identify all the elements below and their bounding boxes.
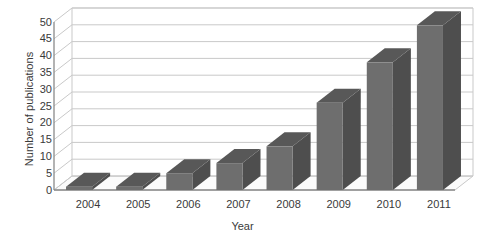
- gridline-connector: [54, 142, 72, 156]
- bar-side-face: [343, 89, 361, 190]
- x-axis-tick-labels: 20042005200620072008200920102011: [0, 198, 485, 216]
- bar-front-face: [66, 187, 92, 190]
- gridline-connector: [54, 126, 72, 140]
- bar-front-face: [417, 25, 443, 190]
- gridline-connector: [54, 92, 72, 106]
- bar-2011: [417, 11, 461, 190]
- bar-front-face: [317, 103, 343, 190]
- bar-front-face: [267, 146, 293, 190]
- x-tick-label: 2008: [266, 198, 312, 210]
- x-tick-label: 2004: [65, 198, 111, 210]
- gridline-connector: [54, 58, 72, 72]
- gridline-connector: [54, 8, 72, 22]
- x-tick-label: 2010: [366, 198, 412, 210]
- x-tick-label: 2005: [115, 198, 161, 210]
- x-axis-title: Year: [0, 220, 485, 232]
- bar-chart: Number of publications 05101520253035404…: [0, 0, 485, 238]
- bar-side-face: [393, 48, 411, 190]
- bar-front-face: [116, 187, 142, 190]
- bar-front-face: [216, 163, 242, 190]
- bar-2009: [317, 89, 361, 190]
- x-tick-label: 2011: [416, 198, 462, 210]
- bar-2010: [367, 48, 411, 190]
- gridline-connector: [54, 75, 72, 89]
- gridline-connector: [54, 25, 72, 39]
- x-tick-label: 2006: [165, 198, 211, 210]
- x-tick-label: 2009: [316, 198, 362, 210]
- x-tick-label: 2007: [215, 198, 261, 210]
- bar-front-face: [367, 62, 393, 190]
- gridline-connector: [54, 42, 72, 56]
- bar-side-face: [443, 11, 461, 190]
- gridline-connector: [54, 109, 72, 123]
- gridline-connector: [54, 159, 72, 173]
- bar-front-face: [166, 173, 192, 190]
